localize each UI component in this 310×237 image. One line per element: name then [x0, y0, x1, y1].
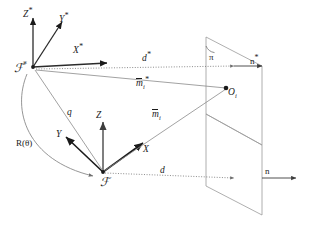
- axis-z-star-label: Z*: [23, 7, 32, 20]
- diagram-canvas: ℱ* Z* Y* X* d* mi* π n* Oi q R(θ) ℱ Z Y …: [0, 0, 310, 237]
- axis-x-star-arrow: [33, 63, 107, 67]
- frame-star-origin-label: ℱ*: [14, 61, 27, 74]
- vector-m-line: [104, 89, 226, 171]
- axis-z-label: Z: [96, 111, 101, 121]
- vector-q-label: q: [67, 108, 72, 118]
- vector-d-line: [105, 173, 234, 178]
- vector-q-line: [35, 70, 103, 171]
- axis-y-star-label: Y*: [59, 12, 68, 25]
- point-oi-label: Oi: [228, 88, 237, 99]
- frame-star-origin-dot: [31, 65, 35, 69]
- axis-x-label: X: [143, 145, 149, 155]
- frame-origin-label: ℱ: [100, 176, 109, 188]
- vector-d-star-line: [36, 66, 234, 69]
- axis-y-arrow: [66, 137, 103, 172]
- normal-label: n: [265, 167, 270, 176]
- axis-y-star-arrow: [33, 22, 62, 67]
- plane-lower: [206, 114, 262, 215]
- frame-origin-dot: [101, 170, 105, 174]
- normal-star-label: n*: [250, 54, 259, 66]
- axis-x-star-label: X*: [73, 43, 83, 56]
- vector-m-star-label: mi*: [136, 76, 149, 91]
- axis-y-label: Y: [56, 130, 61, 140]
- plane-pi-label: π: [209, 53, 214, 62]
- rotation-label: R(θ): [16, 139, 32, 148]
- vector-m-label: mi: [152, 110, 161, 121]
- vector-d-star-label: d*: [142, 51, 151, 64]
- rotation-arc: [22, 74, 93, 176]
- vector-m-star-line: [36, 70, 226, 88]
- vector-d-label: d: [160, 166, 165, 176]
